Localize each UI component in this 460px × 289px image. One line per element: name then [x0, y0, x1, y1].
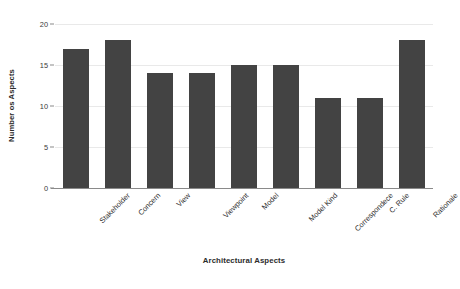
bar [231, 65, 256, 188]
y-tick-mark [50, 147, 54, 148]
bars-group [55, 24, 433, 188]
y-axis-title: Number os Aspects [0, 0, 22, 210]
y-tick-label: 15 [40, 61, 48, 70]
bar [357, 98, 382, 188]
y-tick-label: 5 [44, 143, 48, 152]
bar [189, 73, 214, 188]
x-axis-title: Architectural Aspects [55, 256, 433, 265]
y-tick-label: 20 [40, 20, 48, 29]
x-tick-label: Correspondece [353, 191, 395, 233]
bar [147, 73, 172, 188]
x-tick-label: Concern [136, 191, 162, 217]
bar [273, 65, 298, 188]
y-tick-mark [50, 106, 54, 107]
y-tick-mark [50, 24, 54, 25]
y-tick-label: 10 [40, 102, 48, 111]
bar [105, 40, 130, 188]
x-tick-label: Viewpoint [221, 191, 250, 220]
plot-area: 05101520 [55, 24, 433, 188]
x-tick-label: Model Kind [307, 191, 340, 224]
bar [315, 98, 340, 188]
y-tick-mark [50, 65, 54, 66]
y-tick-label: 0 [44, 184, 48, 193]
x-tick-label: Model [260, 191, 281, 212]
bar [399, 40, 424, 188]
y-axis-title-text: Number os Aspects [7, 69, 16, 142]
x-axis-tick-labels: StakeholderConcernViewViewpointModelMode… [55, 189, 433, 251]
bar [63, 49, 88, 188]
x-tick-label: Stakeholder [98, 191, 132, 225]
x-tick-label: Rationale [431, 191, 459, 219]
x-tick-label: View [175, 191, 193, 209]
